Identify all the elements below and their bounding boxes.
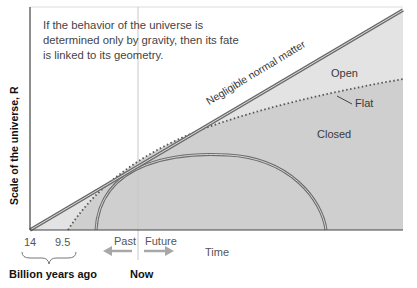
intro-text: If the behavior of the universe is deter… xyxy=(43,18,243,63)
closed-label: Closed xyxy=(317,128,351,140)
flat-label: Flat xyxy=(355,97,373,109)
y-axis-label: Scale of the universe, R xyxy=(8,87,20,205)
open-label: Open xyxy=(331,67,358,79)
past-label: Past xyxy=(114,235,136,247)
tick-9-5: 9.5 xyxy=(55,236,70,248)
x-axis-label: Time xyxy=(205,246,229,258)
future-arrow-head-icon xyxy=(165,246,174,256)
billion-years-ago-label: Billion years ago xyxy=(9,268,97,280)
tick-14: 14 xyxy=(24,236,36,248)
past-arrow-head-icon xyxy=(103,246,112,256)
years-brace xyxy=(22,252,76,264)
now-label: Now xyxy=(130,268,153,280)
future-label: Future xyxy=(145,235,177,247)
